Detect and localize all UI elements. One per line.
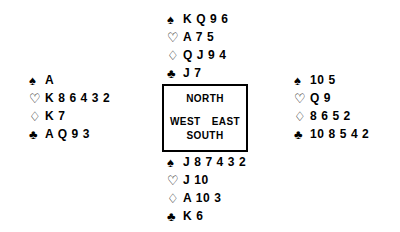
hand-south-spades-ranks: J 8 7 4 3 2 [183,156,246,168]
hand-west-hearts-row: ♡ K 8 6 4 3 2 [29,89,110,107]
heart-icon: ♡ [29,92,45,105]
diamond-icon: ♢ [29,110,45,123]
compass-label-north: NORTH [164,94,246,104]
hand-south-diamonds-row: ♢ A 10 3 [167,189,246,207]
heart-icon: ♡ [167,31,183,44]
hand-east-diamonds-row: ♢ 8 6 5 2 [294,107,369,125]
hand-west-hearts-ranks: K 8 6 4 3 2 [45,92,110,104]
compass-label-west: WEST [170,117,201,127]
hand-north: ♠ K Q 9 6 ♡ A 7 5 ♢ Q J 9 4 ♣ J 7 [167,10,229,82]
hand-north-hearts-ranks: A 7 5 [183,31,214,43]
spade-icon: ♠ [167,156,183,169]
diamond-icon: ♢ [167,49,183,62]
bridge-deal-diagram: ♠ K Q 9 6 ♡ A 7 5 ♢ Q J 9 4 ♣ J 7 ♠ A ♡ … [0,0,400,232]
hand-east-spades-ranks: 10 5 [310,74,336,86]
club-icon: ♣ [167,67,183,80]
hand-east-clubs-row: ♣ 10 8 5 4 2 [294,125,369,143]
hand-north-spades-row: ♠ K Q 9 6 [167,10,229,28]
spade-icon: ♠ [167,13,183,26]
hand-east-hearts-row: ♡ Q 9 [294,89,369,107]
club-icon: ♣ [29,128,45,141]
hand-west-diamonds-row: ♢ K 7 [29,107,110,125]
compass-label-south: SOUTH [164,131,246,141]
hand-east-clubs-ranks: 10 8 5 4 2 [310,128,369,140]
hand-north-spades-ranks: K Q 9 6 [183,13,229,25]
hand-north-diamonds-row: ♢ Q J 9 4 [167,46,229,64]
hand-north-hearts-row: ♡ A 7 5 [167,28,229,46]
heart-icon: ♡ [294,92,310,105]
spade-icon: ♠ [294,74,310,87]
spade-icon: ♠ [29,74,45,87]
compass-box: NORTH WEST EAST SOUTH [162,84,248,152]
hand-west-clubs-row: ♣ A Q 9 3 [29,125,110,143]
hand-south-hearts-ranks: J 10 [183,174,209,186]
hand-east-hearts-ranks: Q 9 [310,92,331,104]
club-icon: ♣ [167,210,183,223]
hand-west-clubs-ranks: A Q 9 3 [45,128,90,140]
heart-icon: ♡ [167,174,183,187]
hand-west-diamonds-ranks: K 7 [45,110,65,122]
hand-north-clubs-row: ♣ J 7 [167,64,229,82]
hand-north-diamonds-ranks: Q J 9 4 [183,49,227,61]
hand-east: ♠ 10 5 ♡ Q 9 ♢ 8 6 5 2 ♣ 10 8 5 4 2 [294,71,369,143]
hand-south-clubs-row: ♣ K 6 [167,207,246,225]
hand-north-clubs-ranks: J 7 [183,67,201,79]
hand-west-spades-ranks: A [45,74,54,86]
diamond-icon: ♢ [167,192,183,205]
hand-south-diamonds-ranks: A 10 3 [183,192,222,204]
diamond-icon: ♢ [294,110,310,123]
hand-south: ♠ J 8 7 4 3 2 ♡ J 10 ♢ A 10 3 ♣ K 6 [167,153,246,225]
hand-south-hearts-row: ♡ J 10 [167,171,246,189]
hand-east-spades-row: ♠ 10 5 [294,71,369,89]
hand-south-spades-row: ♠ J 8 7 4 3 2 [167,153,246,171]
compass-label-east: EAST [212,117,240,127]
hand-west: ♠ A ♡ K 8 6 4 3 2 ♢ K 7 ♣ A Q 9 3 [29,71,110,143]
hand-west-spades-row: ♠ A [29,71,110,89]
hand-east-diamonds-ranks: 8 6 5 2 [310,110,351,122]
club-icon: ♣ [294,128,310,141]
hand-south-clubs-ranks: K 6 [183,210,203,222]
